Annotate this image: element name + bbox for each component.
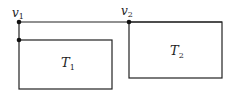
vertex-t1-root-dot <box>17 38 22 43</box>
tree-diagram: v1 v2 T1 T2 <box>0 0 234 95</box>
label-v1: v1 <box>12 6 24 21</box>
vertex-v2-dot <box>127 20 132 25</box>
label-t2: T2 <box>170 43 184 60</box>
label-v2: v2 <box>121 4 133 19</box>
label-t1: T1 <box>61 55 75 72</box>
